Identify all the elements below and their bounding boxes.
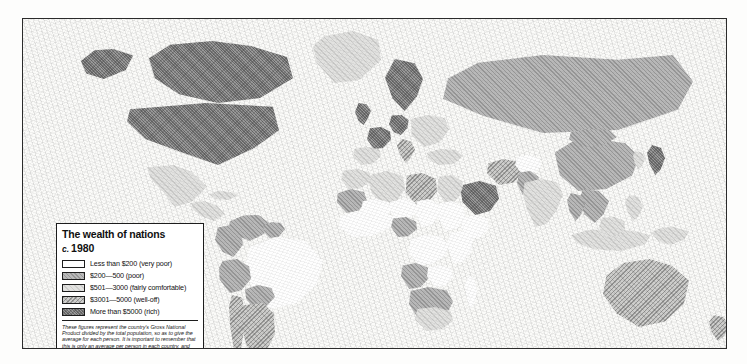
world-map-plate: The wealth of nations c.1980 Less than $… bbox=[22, 18, 727, 349]
legend-item: Less than $200 (very poor) bbox=[62, 259, 198, 270]
legend-date-prefix: c. bbox=[62, 244, 69, 254]
legend-swatch-t5 bbox=[62, 308, 85, 317]
legend-swatch-t4 bbox=[62, 296, 85, 305]
legend-item-label: $3001—5000 (well-off) bbox=[90, 295, 159, 304]
legend-item: $501—3000 (fairly comfortable) bbox=[62, 283, 198, 294]
legend-item: $200—500 (poor) bbox=[62, 271, 198, 282]
legend-item-label: More than $5000 (rich) bbox=[90, 307, 159, 316]
legend-item-label: Less than $200 (very poor) bbox=[90, 259, 172, 268]
map-page: The wealth of nations c.1980 Less than $… bbox=[0, 0, 747, 364]
legend-swatch-t1 bbox=[62, 260, 85, 269]
country-region bbox=[241, 303, 275, 349]
legend-title: The wealth of nations bbox=[62, 229, 198, 241]
legend-date-year: 1980 bbox=[71, 242, 94, 254]
legend-swatch-t2 bbox=[62, 272, 85, 281]
map-legend: The wealth of nations c.1980 Less than $… bbox=[56, 223, 204, 349]
legend-item: $3001—5000 (well-off) bbox=[62, 295, 198, 306]
legend-note: These figures represent the country's Gr… bbox=[62, 320, 198, 349]
legend-date: c.1980 bbox=[62, 242, 198, 255]
legend-item-label: $200—500 (poor) bbox=[90, 271, 144, 280]
legend-item: More than $5000 (rich) bbox=[62, 307, 198, 318]
legend-swatch-t3 bbox=[62, 284, 85, 293]
legend-item-label: $501—3000 (fairly comfortable) bbox=[90, 283, 186, 292]
legend-item-list: Less than $200 (very poor)$200—500 (poor… bbox=[62, 259, 198, 318]
